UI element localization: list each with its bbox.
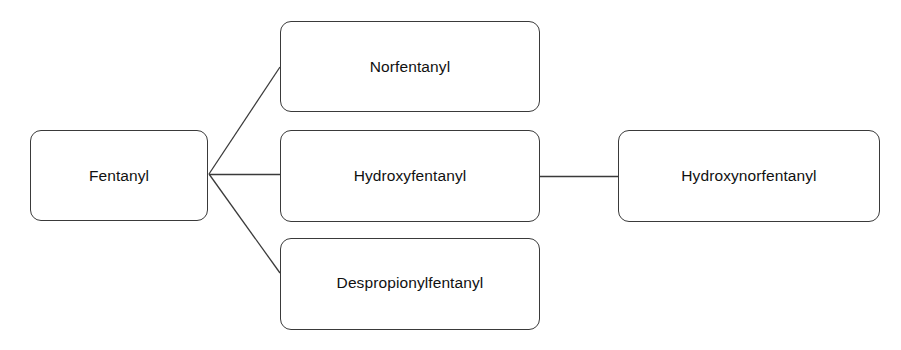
node-hydroxynorfentanyl-label: Hydroxynorfentanyl (681, 168, 816, 184)
node-fentanyl[interactable]: Fentanyl (30, 130, 208, 221)
node-fentanyl-label: Fentanyl (89, 168, 149, 184)
node-norfentanyl[interactable]: Norfentanyl (280, 21, 540, 112)
edge-fentanyl-to-despropionylfentanyl (209, 174, 280, 273)
node-despropionylfentanyl[interactable]: Despropionylfentanyl (280, 238, 540, 330)
node-hydroxynorfentanyl[interactable]: Hydroxynorfentanyl (618, 130, 880, 222)
node-hydroxyfentanyl-label: Hydroxyfentanyl (354, 168, 467, 184)
metabolic-pathway-diagram: Fentanyl Norfentanyl Hydroxyfentanyl Des… (0, 0, 901, 350)
edge-fentanyl-to-norfentanyl (209, 67, 280, 174)
node-hydroxyfentanyl[interactable]: Hydroxyfentanyl (280, 130, 540, 222)
node-norfentanyl-label: Norfentanyl (370, 59, 450, 75)
node-despropionylfentanyl-label: Despropionylfentanyl (337, 275, 484, 291)
